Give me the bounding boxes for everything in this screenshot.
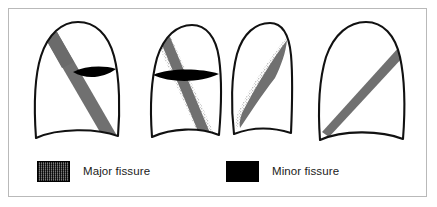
legend-item-major-fissure: Major fissure [37,161,150,182]
panel-right-lung-frontal-stippled [151,25,221,138]
panel-right-lung-lateral [232,23,292,134]
legend-label-minor-fissure: Minor fissure [272,166,339,178]
major-fissure-band-taper [44,32,74,68]
major-fissure-band [322,46,404,137]
panel-left-lung-frontal [319,22,404,140]
major-fissure-band [160,37,210,136]
legend-label-major-fissure: Major fissure [83,166,150,178]
figure-root: Major fissure Minor fissure [0,0,437,207]
legend-swatch-major-fissure [37,161,70,182]
panel-right-lung-frontal [35,22,119,139]
legend-item-minor-fissure: Minor fissure [226,161,339,182]
legend-swatch-minor-fissure [226,161,259,182]
minor-fissure-lens [153,70,219,81]
major-fissure-wedge [240,40,287,128]
